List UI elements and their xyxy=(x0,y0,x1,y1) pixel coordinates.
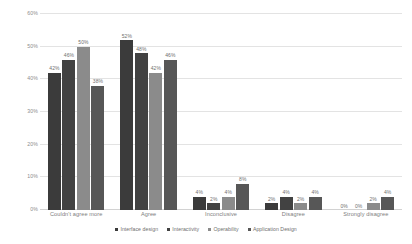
bar-slot: 42% xyxy=(149,14,162,210)
bar-chart: 0%10%20%30%40%50%60% 42%46%50%38%52%48%4… xyxy=(0,0,412,244)
bar-value-label: 4% xyxy=(312,190,319,195)
bar-value-label: 42% xyxy=(49,66,59,71)
bar[interactable] xyxy=(48,73,61,210)
legend-label: Interactivity xyxy=(172,227,199,232)
bar-slot: 2% xyxy=(367,14,380,210)
bar-slot: 2% xyxy=(265,14,278,210)
bar-value-label: 4% xyxy=(196,190,203,195)
bar-slot: 4% xyxy=(280,14,293,210)
bar-slot: 52% xyxy=(120,14,133,210)
bar-slot: 38% xyxy=(91,14,104,210)
bar-group: 0%0%2%4% xyxy=(330,14,402,210)
bar-slot: 50% xyxy=(77,14,90,210)
bar[interactable] xyxy=(236,184,249,210)
bar-group: 2%4%2%4% xyxy=(257,14,329,210)
bar-slot: 2% xyxy=(294,14,307,210)
bar-value-label: 4% xyxy=(283,190,290,195)
legend-label: Interface design xyxy=(120,227,158,232)
legend-item[interactable]: Interactivity xyxy=(167,227,199,232)
y-axis-tick-label: 40% xyxy=(4,77,38,82)
bar[interactable] xyxy=(62,60,75,210)
bar-value-label: 52% xyxy=(122,34,132,39)
legend-swatch-icon xyxy=(115,228,118,231)
bar[interactable] xyxy=(222,197,235,210)
bar-value-label: 38% xyxy=(93,79,103,84)
bar-group: 42%46%50%38% xyxy=(40,14,112,210)
bar-value-label: 46% xyxy=(64,53,74,58)
bar-slot: 46% xyxy=(62,14,75,210)
bar[interactable] xyxy=(280,197,293,210)
bar[interactable] xyxy=(207,203,220,210)
bar-slot: 4% xyxy=(309,14,322,210)
x-axis-tick-label: Agree xyxy=(112,212,184,218)
legend-swatch-icon xyxy=(248,228,251,231)
bar-slot: 42% xyxy=(48,14,61,210)
bar-value-label: 4% xyxy=(384,190,391,195)
bar-slot: 4% xyxy=(222,14,235,210)
bar[interactable] xyxy=(91,86,104,210)
bar-value-label: 2% xyxy=(210,197,217,202)
x-axis-tick-label: Strongly disagree xyxy=(330,212,402,218)
bar-value-label: 4% xyxy=(225,190,232,195)
x-axis-labels: Couldn't agree moreAgreeInconclusiveDisa… xyxy=(40,212,402,218)
y-axis-tick-label: 10% xyxy=(4,175,38,180)
bar-value-label: 50% xyxy=(78,40,88,45)
bar-slot: 46% xyxy=(164,14,177,210)
bar-groups: 42%46%50%38%52%48%42%46%4%2%4%8%2%4%2%4%… xyxy=(40,14,402,210)
y-axis-tick-label: 0% xyxy=(4,207,38,212)
y-axis-tick-label: 50% xyxy=(4,44,38,49)
y-axis-tick-label: 30% xyxy=(4,109,38,114)
bar-slot: 48% xyxy=(135,14,148,210)
bar-slot: 2% xyxy=(207,14,220,210)
bar[interactable] xyxy=(135,53,148,210)
x-axis-tick-label: Couldn't agree more xyxy=(40,212,112,218)
bar[interactable] xyxy=(149,73,162,210)
y-axis: 0%10%20%30%40%50%60% xyxy=(0,14,38,210)
bar-value-label: 2% xyxy=(268,197,275,202)
bar-slot: 4% xyxy=(193,14,206,210)
bar-value-label: 46% xyxy=(165,53,175,58)
legend-swatch-icon xyxy=(167,228,170,231)
bar[interactable] xyxy=(193,197,206,210)
legend-label: Operability xyxy=(213,227,238,232)
bar-group: 52%48%42%46% xyxy=(112,14,184,210)
bar[interactable] xyxy=(381,197,394,210)
bar[interactable] xyxy=(309,197,322,210)
bar[interactable] xyxy=(77,47,90,210)
x-axis-tick-label: Disagree xyxy=(257,212,329,218)
bar[interactable] xyxy=(294,203,307,210)
y-axis-tick-label: 20% xyxy=(4,142,38,147)
bar-value-label: 8% xyxy=(239,177,246,182)
bar[interactable] xyxy=(367,203,380,210)
bar-slot: 0% xyxy=(338,14,351,210)
legend-item[interactable]: Interface design xyxy=(115,227,158,232)
bar[interactable] xyxy=(164,60,177,210)
legend-item[interactable]: Operability xyxy=(208,227,239,232)
bar-value-label: 48% xyxy=(136,47,146,52)
bar-group: 4%2%4%8% xyxy=(185,14,257,210)
bar-value-label: 0% xyxy=(355,204,362,209)
legend-item[interactable]: Application Design xyxy=(248,227,297,232)
legend-label: Application Design xyxy=(253,227,297,232)
chart-legend: Interface designInteractivityOperability… xyxy=(0,227,412,232)
bar-value-label: 2% xyxy=(297,197,304,202)
bar-value-label: 42% xyxy=(151,66,161,71)
bar-value-label: 0% xyxy=(340,204,347,209)
bar[interactable] xyxy=(265,203,278,210)
bar-slot: 4% xyxy=(381,14,394,210)
bar-slot: 0% xyxy=(352,14,365,210)
bar[interactable] xyxy=(120,40,133,210)
y-axis-tick-label: 60% xyxy=(4,11,38,16)
legend-swatch-icon xyxy=(208,228,211,231)
bar-slot: 8% xyxy=(236,14,249,210)
bar-value-label: 2% xyxy=(369,197,376,202)
x-axis-tick-label: Inconclusive xyxy=(185,212,257,218)
